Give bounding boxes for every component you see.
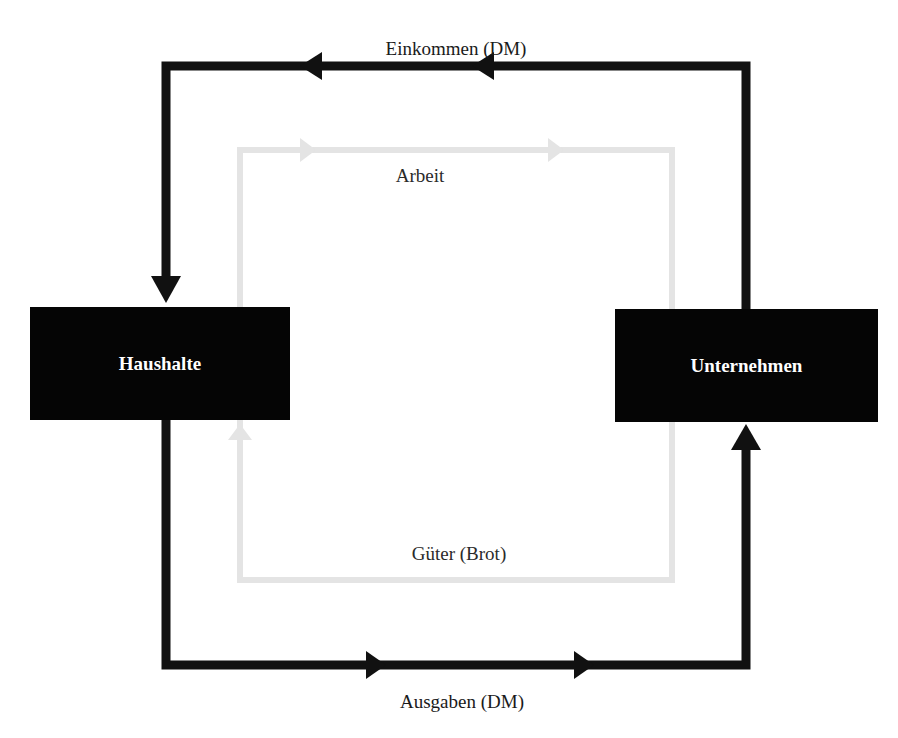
households-label: Haushalte	[119, 353, 201, 375]
labor-label: Arbeit	[396, 166, 445, 185]
income-label: Einkommen (DM)	[386, 39, 527, 58]
income-arrow-down-icon	[151, 276, 181, 303]
goods-arrow-up-icon	[228, 424, 252, 440]
spending-label: Ausgaben (DM)	[400, 692, 524, 711]
income-arrow-left-icon	[300, 52, 322, 80]
labor-arrow-icon	[548, 138, 564, 162]
spending-arrow-up-icon	[731, 424, 761, 450]
firms-label: Unternehmen	[691, 355, 803, 377]
goods-label: Güter (Brot)	[412, 544, 506, 563]
labor-flow-line	[240, 150, 672, 309]
firms-box: Unternehmen	[615, 309, 878, 422]
real-flow-loop	[240, 150, 672, 580]
labor-arrow-icon	[300, 138, 316, 162]
spending-arrow-right-icon	[366, 651, 386, 679]
households-box: Haushalte	[30, 307, 290, 420]
income-flow-line	[166, 66, 746, 309]
spending-arrow-right-icon	[574, 651, 594, 679]
